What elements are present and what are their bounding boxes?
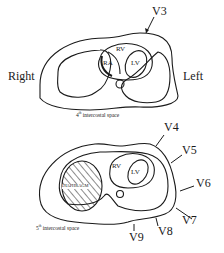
top-left-lung [122,52,171,103]
lead-v9-label: V9 [129,231,144,243]
top-rv-label: RV [116,46,125,53]
v5-arrow [171,155,182,163]
bottom-cross-section [40,143,176,224]
bottom-lv-label: LV [131,169,140,176]
v4-arrow [156,135,164,146]
top-ra-label: RA [103,60,113,67]
lead-v7-label: V7 [182,214,197,226]
lead-v4-label: V4 [164,121,179,133]
right-side-label: Right [8,70,35,82]
top-chest-wall [40,33,178,110]
lead-v6-label: V6 [196,177,211,189]
v6-arrow [180,186,194,191]
lead-v8-label: V8 [158,225,173,237]
top-lv-label: LV [131,60,140,67]
lead-v5-label: V5 [182,144,197,156]
top-caption: 4th intercostal space [76,113,119,119]
bottom-spine [117,191,124,198]
top-cross-section [40,33,178,110]
bottom-rv-label: RV [112,163,121,170]
diaphragm-label: DIAPHRAGM [62,184,88,189]
bottom-chest-wall [40,143,176,224]
left-side-label: Left [183,70,203,82]
bottom-caption: 5th intercostal space [36,226,79,232]
lead-v3-label: V3 [152,5,167,17]
